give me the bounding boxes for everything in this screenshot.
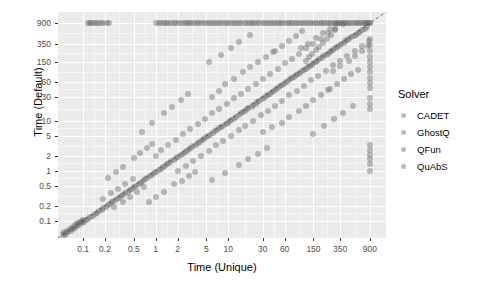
scatter-point [296,51,302,57]
scatter-point [60,231,66,237]
scatter-point [131,155,137,161]
legend-dot-icon [401,147,406,152]
scatter-point [340,21,346,27]
scatter-point [331,116,337,122]
scatter-point [298,45,304,51]
y-tick-mark [55,121,58,122]
scatter-point [220,138,226,144]
scatter-point [275,66,281,72]
scatter-point [346,58,352,64]
scatter-point [367,69,373,75]
scatter-point [330,68,336,74]
scatter-point [318,92,324,98]
scatter-point [153,153,159,159]
scatter-point [301,83,307,89]
scatter-point [350,103,356,109]
scatter-point [222,170,228,176]
gridline-horizontal [58,156,386,157]
y-tick-mark [55,171,58,172]
scatter-point [192,169,198,175]
scatter-point [238,91,244,97]
legend-item-quabs[interactable]: QuAbS [396,158,481,175]
scatter-point [178,97,184,103]
y-tick-mark [55,82,58,83]
gridline-horizontal [58,186,386,187]
scatter-point [348,71,354,77]
scatter-point [267,71,273,77]
legend-items: CADETGhostQQFunQuAbS [396,107,481,175]
legend-key-icon [396,108,411,123]
scatter-point [260,129,266,135]
gridline-vertical [263,12,264,238]
y-tick-label: 900 [0,18,51,28]
scatter-point [265,108,271,114]
gridline-horizontal [58,163,386,164]
scatter-point [258,112,264,118]
gridline-horizontal [58,196,386,197]
scatter-point [171,181,177,187]
y-tick-label: 0.2 [0,201,51,211]
scatter-point [173,137,179,143]
scatter-point [158,147,164,153]
scatter-point [352,53,358,59]
y-tick-label: 0.1 [0,216,51,226]
scatter-point [127,194,133,200]
scatter-point [228,133,234,139]
x-tick-mark [370,238,371,241]
scatter-point [240,69,246,75]
scatter-point [245,86,251,92]
legend-item-ghostq[interactable]: GhostQ [396,124,481,141]
x-tick-mark [178,238,179,241]
scatter-point [111,204,117,210]
legend-key-icon [396,125,411,140]
gridline-horizontal [58,33,386,34]
gridline-horizontal [58,72,386,73]
gridline-horizontal [58,136,386,137]
scatter-point [105,175,111,181]
y-tick-mark [55,136,58,137]
scatter-point [310,97,316,103]
x-tick-mark [313,238,314,241]
scatter-point [113,169,119,175]
gridline-horizontal [58,89,386,90]
plot-panel [58,12,386,238]
scatter-point [279,98,285,104]
scatter-point [260,76,266,82]
y-tick-label: 0.5 [0,181,51,191]
legend-item-cadet[interactable]: CADET [396,107,481,124]
gridline-vertical [145,12,146,238]
x-tick-mark [228,238,229,241]
scatter-point [224,101,230,107]
scatter-point [247,64,253,70]
gridline-vertical [192,12,193,238]
scatter-point [255,59,261,65]
y-tick-mark [55,221,58,222]
gridline-horizontal [58,146,386,147]
scatter-point [264,145,270,151]
scatter-point [149,120,155,126]
scatter-point [202,116,208,122]
gridline-vertical [134,12,135,238]
scatter-point [195,121,201,127]
legend-item-qfun[interactable]: QFun [396,141,481,158]
scatter-point [286,38,292,44]
scatter-point [161,189,167,195]
scatter-point [253,81,259,87]
scatter-point [115,186,121,192]
scatter-point [175,168,181,174]
scatter-point [216,88,222,94]
chart-root: 9003501506030105210.50.20.1 0.10.20.5125… [0,0,481,299]
x-tick-mark [156,238,157,241]
gridline-vertical [178,12,179,238]
scatter-point [236,39,242,45]
scatter-point [183,163,189,169]
scatter-point [186,173,192,179]
scatter-point [206,59,212,65]
scatter-point [272,48,278,54]
scatter-point [313,35,319,41]
x-tick-mark [340,238,341,241]
scatter-point [134,189,140,195]
legend: Solver CADETGhostQQFunQuAbS [396,88,481,175]
scatter-point [218,52,224,58]
scatter-point [272,103,278,109]
